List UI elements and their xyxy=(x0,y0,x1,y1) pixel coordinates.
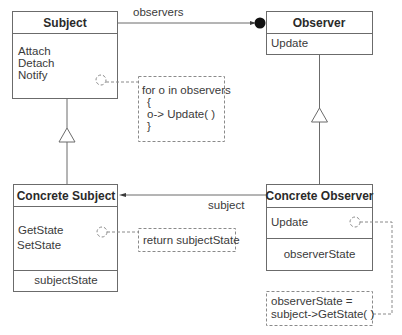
note-line: observerState = xyxy=(271,295,353,307)
operation-attach: Attach xyxy=(18,45,51,57)
association-label-subject: subject xyxy=(208,199,245,211)
note-notify-impl: for o in observers { o-> Update( ) } xyxy=(106,77,231,142)
class-title-observer: Observer xyxy=(293,16,346,30)
arrowhead-icon xyxy=(119,193,126,197)
operation-setstate: SetState xyxy=(17,239,61,251)
generalization-subject xyxy=(59,98,75,184)
note-getstate-impl: return subjectState xyxy=(107,229,240,252)
note-line: subject->GetState( ) xyxy=(271,308,374,320)
operation-update: Update xyxy=(271,37,308,49)
generalization-observer xyxy=(312,55,328,184)
many-multiplicity-dot-icon xyxy=(255,18,266,29)
note-line: return subjectState xyxy=(143,234,240,246)
class-observer: Observer Update xyxy=(267,12,373,55)
note-line: o-> Update( ) xyxy=(147,108,215,120)
class-title-concrete-subject: Concrete Subject xyxy=(17,189,116,203)
note-line: for o in observers xyxy=(142,84,231,96)
note-line: { xyxy=(147,96,151,108)
class-title-concrete-observer: Concrete Observer xyxy=(265,189,373,203)
observer-pattern-diagram: observers Subject Attach Detach Notify f… xyxy=(0,0,402,335)
operation-update: Update xyxy=(271,216,308,228)
operation-detach: Detach xyxy=(18,57,54,69)
association-label-observers: observers xyxy=(133,6,184,18)
class-concrete-subject: Concrete Subject GetState SetState subje… xyxy=(14,185,118,292)
association-observers: observers xyxy=(117,6,266,29)
operation-getstate: GetState xyxy=(18,224,63,236)
note-line: } xyxy=(147,120,151,132)
operation-notify: Notify xyxy=(18,69,48,81)
inheritance-triangle-icon xyxy=(312,108,328,122)
association-subject: subject xyxy=(119,193,266,211)
attribute-observerstate: observerState xyxy=(284,248,356,260)
class-title-subject: Subject xyxy=(43,16,86,30)
class-concrete-observer: Concrete Observer Update observerState xyxy=(265,185,373,271)
inheritance-triangle-icon xyxy=(59,128,75,142)
attribute-subjectstate: subjectState xyxy=(34,274,97,286)
class-subject: Subject Attach Detach Notify xyxy=(13,12,118,99)
